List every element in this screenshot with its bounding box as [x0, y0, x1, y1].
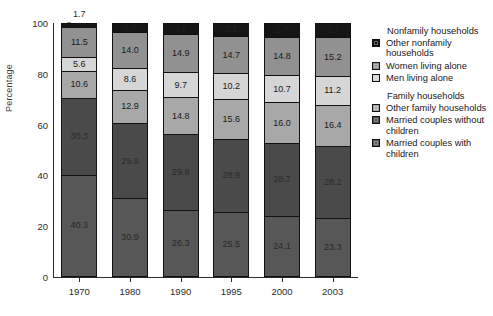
- bar-segment[interactable]: 3.7: [112, 23, 148, 32]
- bar-segment-value: 30.9: [121, 233, 139, 242]
- bar-segment[interactable]: 40.3: [61, 175, 97, 277]
- bar-segment[interactable]: 14.9: [163, 34, 199, 72]
- bar-1970[interactable]: 11.55.610.630.340.3: [61, 23, 97, 277]
- legend-item[interactable]: Men living alone: [372, 73, 492, 84]
- y-axis-title: Percentage: [4, 64, 14, 112]
- bar-segment[interactable]: 23.3: [315, 218, 351, 277]
- bar-segment-value: 28.9: [223, 171, 241, 180]
- bar-segment[interactable]: 25.5: [213, 212, 249, 277]
- x-tick-mark: [333, 277, 334, 282]
- bar-segment-value: 3.7: [124, 24, 137, 33]
- bar-segment-value: 14.8: [273, 52, 291, 61]
- legend-swatch-icon: [372, 74, 380, 82]
- bar-segment-value: 5.7: [326, 26, 339, 35]
- y-tick-label: 40: [20, 170, 48, 181]
- bar-2003[interactable]: 5.715.211.216.428.223.3: [315, 23, 351, 277]
- legend-group-title: Nonfamily households: [387, 26, 492, 37]
- bar-segment-value: 16.4: [324, 121, 342, 130]
- bar-segment-value: 12.9: [121, 102, 139, 111]
- bar-segment-value: 11.5: [71, 38, 88, 47]
- bar-segment[interactable]: 11.2: [315, 76, 351, 104]
- bar-segment[interactable]: 28.9: [213, 139, 249, 212]
- bar-2000[interactable]: 5.714.810.716.028.724.1: [264, 23, 300, 277]
- bar-segment[interactable]: 29.9: [112, 123, 148, 199]
- bar-segment[interactable]: 10.2: [213, 73, 249, 99]
- bar-segment[interactable]: 9.7: [163, 72, 199, 97]
- bar-segment[interactable]: 29.8: [163, 134, 199, 210]
- bar-segment-value: 4.5: [174, 25, 187, 34]
- x-tick-label: 1990: [157, 286, 205, 297]
- bar-1980[interactable]: 3.714.08.612.929.930.9: [112, 23, 148, 277]
- bar-segment-value: 10.6: [71, 80, 89, 89]
- bar-segment[interactable]: 10.7: [264, 75, 300, 102]
- legend-item[interactable]: Married couples without children: [372, 115, 492, 136]
- bar-segment[interactable]: 14.8: [264, 37, 300, 75]
- bar-segment[interactable]: 28.7: [264, 143, 300, 216]
- x-tick-label: 1995: [207, 286, 255, 297]
- bar-segment-value: 29.8: [172, 168, 190, 177]
- bar-segment-value: 28.2: [324, 178, 342, 187]
- bar-segment[interactable]: 11.5: [61, 27, 97, 56]
- legend-item-label: Other family households: [386, 103, 492, 114]
- bar-segment[interactable]: 26.3: [163, 210, 199, 277]
- bar-1995[interactable]: 5.114.710.215.628.925.5: [213, 23, 249, 277]
- bar-segment[interactable]: 14.7: [213, 36, 249, 73]
- x-tick-mark: [181, 277, 182, 282]
- bar-segment[interactable]: 5.7: [315, 23, 351, 37]
- stacked-bar-chart: Percentage 100806040200 11.55.610.630.34…: [0, 0, 493, 316]
- bar-segment-value: 5.7: [276, 26, 289, 35]
- bar-segment-value: 40.3: [71, 221, 89, 230]
- legend-item-label: Married couples without children: [386, 115, 492, 136]
- y-tick-label: 100: [20, 18, 48, 29]
- bar-segment[interactable]: 15.6: [213, 99, 249, 139]
- legend-group-title: Family households: [387, 91, 492, 102]
- bar-segment-value: 26.3: [172, 239, 190, 248]
- bar-top-value-label: 1.7: [55, 9, 103, 19]
- y-tick-label: 80: [20, 68, 48, 79]
- y-axis-ticks: 100806040200: [18, 0, 48, 316]
- bar-segment-value: 5.6: [73, 60, 86, 69]
- bar-segment[interactable]: 10.6: [61, 71, 97, 98]
- legend-item-label: Other nonfamily households: [386, 38, 492, 59]
- bar-segment-value: 24.1: [273, 242, 291, 251]
- bar-segment[interactable]: 16.0: [264, 102, 300, 143]
- bar-segment-value: 25.5: [223, 240, 241, 249]
- legend-item[interactable]: Married couples with children: [372, 138, 492, 159]
- bar-segment-value: 15.6: [223, 115, 241, 124]
- bar-segment[interactable]: 30.3: [61, 98, 97, 175]
- x-tick-label: 2000: [258, 286, 306, 297]
- bar-segment[interactable]: 16.4: [315, 105, 351, 147]
- legend-item-label: Married couples with children: [386, 138, 492, 159]
- bar-segment[interactable]: 5.7: [264, 23, 300, 37]
- bar-segment-value: 8.6: [124, 75, 137, 84]
- bar-segment-value: 5.1: [225, 25, 238, 34]
- legend-item[interactable]: Other family households: [372, 103, 492, 114]
- bar-segment[interactable]: 14.8: [163, 97, 199, 135]
- x-tick-label: 1970: [55, 286, 103, 297]
- legend-item[interactable]: Women living alone: [372, 61, 492, 72]
- x-tick-mark: [282, 277, 283, 282]
- bar-segment[interactable]: 14.0: [112, 32, 148, 68]
- legend-swatch-icon: [372, 62, 380, 70]
- bar-segment-value: 9.7: [174, 81, 187, 90]
- legend-item[interactable]: Other nonfamily households: [372, 38, 492, 59]
- bar-segment-value: 10.7: [273, 85, 291, 94]
- bar-segment[interactable]: 5.1: [213, 23, 249, 36]
- bar-segment-value: 14.8: [172, 112, 190, 121]
- bar-segment[interactable]: 30.9: [112, 198, 148, 276]
- bar-segment[interactable]: 4.5: [163, 23, 199, 34]
- bar-segment[interactable]: 24.1: [264, 216, 300, 277]
- bar-1990[interactable]: 4.514.99.714.829.826.3: [163, 23, 199, 277]
- bar-segment[interactable]: 8.6: [112, 68, 148, 90]
- bar-segment-value: 29.9: [121, 157, 139, 166]
- bar-segment[interactable]: 5.6: [61, 57, 97, 71]
- x-tick-label: 1980: [106, 286, 154, 297]
- bar-segment-value: 23.3: [324, 243, 342, 252]
- x-tick-mark: [79, 277, 80, 282]
- bar-segment[interactable]: 15.2: [315, 37, 351, 76]
- bar-segment[interactable]: 28.2: [315, 146, 351, 218]
- legend-swatch-icon: [372, 139, 380, 147]
- x-tick-mark: [130, 277, 131, 282]
- y-tick-label: 60: [20, 119, 48, 130]
- bar-segment[interactable]: 12.9: [112, 90, 148, 123]
